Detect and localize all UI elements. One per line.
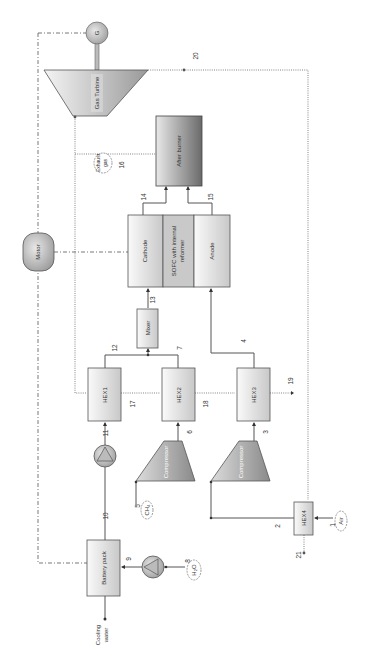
streams-12-7-line [105, 355, 178, 368]
hex3-label: HEX3 [251, 387, 257, 403]
stream-2: 2 [274, 524, 281, 528]
stream-3: 3 [262, 430, 269, 434]
stream-10: 10 [102, 512, 109, 520]
fuel-compressor-label: Compressor [163, 446, 169, 479]
stream-5: 5 [134, 504, 141, 508]
pump-2 [142, 556, 164, 578]
stream-numbers: 20 16 14 15 13 12 7 4 17 18 19 6 3 11 10… [102, 52, 336, 563]
turbine-to-hex1-line [75, 117, 86, 393]
stream-13: 13 [149, 296, 156, 304]
stream-4-line [211, 289, 254, 368]
battery-pack-label: Battery pack [101, 550, 107, 584]
gas-turbine: Gas Turbine [44, 70, 148, 118]
mixer-label: Mixer [145, 321, 151, 336]
stream-11: 11 [102, 429, 109, 436]
sofc-gt-system-diagram: G Gas Turbine After burner Exhaust gas M… [0, 0, 365, 661]
air-compressor-label: Compressor [238, 446, 244, 479]
stream-15: 15 [207, 193, 214, 201]
exhaust-gas-terminal: Exhaust gas [94, 153, 112, 173]
gas-turbine-label: Gas Turbine [94, 76, 100, 109]
sofc-stack: Cathode SOFC with internal reformer Anod… [128, 215, 230, 287]
stream-1: 1 [329, 523, 336, 527]
stream-12: 12 [111, 344, 118, 352]
h2o-label: H₂O [191, 564, 197, 576]
generator-label: G [94, 30, 100, 35]
stream-21: 21 [295, 551, 302, 559]
hex2-label: HEX2 [176, 387, 182, 403]
sofc-label-line1: SOFC with internal [171, 226, 177, 276]
cooling-water-label-2: water [103, 628, 109, 644]
hex1-label: HEX1 [102, 387, 108, 403]
generator-shaft [95, 43, 99, 70]
motor-label: Motor [35, 244, 41, 259]
cathode-label: Cathode [142, 239, 148, 262]
stream-2-line [211, 482, 294, 518]
ch4-terminal: CH₄ [141, 501, 153, 519]
hex4: HEX4 [294, 502, 313, 535]
stream-14: 14 [140, 193, 147, 201]
mixer: Mixer [137, 309, 158, 348]
stream-4: 4 [240, 339, 247, 343]
hex4-label: HEX4 [301, 510, 307, 526]
exhaust-label-2: gas [102, 158, 108, 167]
stream-17: 17 [129, 400, 136, 408]
ch4-label: CH₄ [144, 504, 150, 516]
stream-18: 18 [202, 400, 209, 408]
after-burner: After burner [156, 116, 202, 186]
stream-20: 20 [192, 52, 199, 60]
motor: Motor [23, 233, 54, 271]
air-compressor: Compressor [211, 441, 270, 481]
anode-label: Anode [209, 242, 215, 260]
generator: G [86, 22, 108, 70]
exhaust-label-1: Exhaust [95, 153, 101, 172]
stream-19: 19 [287, 377, 294, 385]
cooling-water-label-1: Cooling [95, 625, 101, 645]
stream-6: 6 [186, 430, 193, 434]
hex2: HEX2 [162, 368, 195, 421]
pump-1 [94, 445, 116, 467]
stream-9: 9 [125, 557, 132, 561]
air-terminal: Air [335, 511, 347, 531]
fuel-compressor: Compressor [136, 441, 195, 481]
air-label: Air [338, 517, 344, 524]
battery-pack: Battery pack [87, 540, 120, 596]
hex1: HEX1 [88, 368, 121, 421]
sofc-label-line2: reformer [179, 240, 185, 263]
stream-7: 7 [176, 346, 183, 350]
stream-16: 16 [118, 161, 125, 169]
stream-8: 8 [184, 559, 191, 563]
after-burner-label: After burner [176, 135, 182, 167]
hex3: HEX3 [237, 368, 270, 421]
